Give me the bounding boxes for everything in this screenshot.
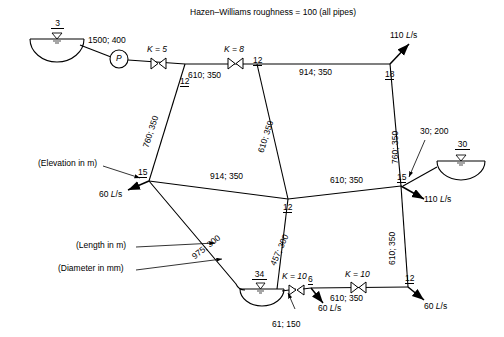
valve-k5-label: K = 5 [147,45,167,54]
pipe-middle-right-line [288,186,401,199]
pipe-top-right-label: 914; 350 [299,68,332,77]
valve-k10-left-symbol [289,285,304,295]
legend-elevation-label: (Elevation in m) [38,159,97,168]
pipe-reservoir-right-label: 30; 200 [420,127,448,136]
legend-length-label: (Length in m) [76,241,126,250]
pipe-bottom-left-diagonal-line [149,181,245,290]
node-12-middle-label: 12 [283,203,292,213]
node-12-upper-right-label: 12 [253,56,262,66]
demand-arrow-node-18 [390,44,409,64]
pipe-reservoir-right-line [403,167,437,186]
pipe-bottom-label: 610; 350 [330,294,363,303]
valve-k8-symbol [228,58,243,69]
demand-node-15-right-label: 110 L/s [424,195,451,204]
pipe-middle-left-label: 914; 350 [210,172,243,181]
demand-node-6-label: 60 L/s [318,304,341,313]
node-12-top-label: 12 [180,77,189,87]
leader-diameter [136,259,222,270]
network-diagram: Hazen–Williams roughness = 100 (all pipe… [0,0,504,337]
node-18-label: 18 [385,70,394,80]
demand-node-15-left-label: 60 L/s [99,190,122,199]
reservoir-right-elevation: 30 [455,140,470,150]
demand-node-12-bottom-right-label: 60 L/s [424,302,447,311]
pipe-pump-suction-label: 1500; 400 [88,36,126,45]
demand-arrow-node-12-bottom-right [408,287,424,300]
valve-k10-right-label: K = 10 [345,270,370,279]
demand-node-18-label: 110 L/s [390,31,417,40]
reservoir-bottom-elevation: 34 [252,270,267,280]
node-6-label: 6 [308,275,313,285]
pipe-right-upper-vertical-label: 760; 350 [391,131,400,164]
pump-label: P [116,54,122,63]
demand-arrow-node-6 [311,288,323,303]
diagram-title: Hazen–Williams roughness = 100 (all pipe… [190,8,356,17]
valve-k8-label: K = 8 [224,45,244,54]
leader-reservoir-bottom-pipe [288,293,295,309]
reservoir-left-elevation: 3 [51,19,64,29]
pipe-right-lower-vertical-line [401,186,408,287]
pipe-top-left-label: 610; 350 [188,71,221,80]
node-15-left-label: 15 [138,168,147,178]
pipe-reservoir-bottom-label: 61; 150 [272,320,300,329]
valve-k10-right-symbol [351,282,366,293]
pipe-middle-right-label: 610; 350 [330,176,363,185]
network-schematic [0,0,504,337]
legend-diameter-label: (Diameter in mm) [58,264,124,273]
valve-k5-symbol [151,58,166,69]
node-12-bottom-right-label: 12 [405,274,414,284]
node-15-right-label: 15 [397,173,406,183]
reservoir-right [437,155,485,180]
valve-k10-left-label: K = 10 [282,272,307,281]
pipe-middle-left-line [149,181,288,199]
pipe-right-upper-vertical-line [390,64,401,186]
pipe-right-lower-vertical-label: 610; 350 [388,232,397,265]
reservoir-left [30,33,84,62]
leader-elevation [103,166,140,178]
leader-reservoir-right [409,140,425,177]
pipe-pump-suction-line [80,45,111,57]
demand-arrow-node-15-right [401,186,424,199]
demand-arrow-node-15-left [128,181,149,190]
